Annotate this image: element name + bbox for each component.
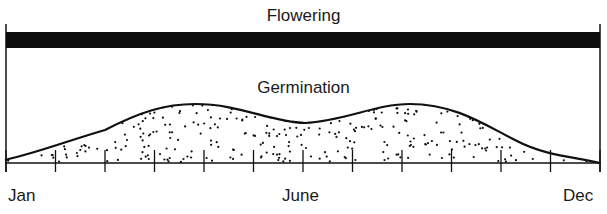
- axis-ticks: [6, 150, 600, 172]
- germination-label: Germination: [0, 78, 607, 98]
- month-label-jan: Jan: [8, 186, 35, 206]
- month-label-dec: Dec: [563, 186, 593, 206]
- phenology-diagram: [0, 0, 607, 214]
- flowering-label: Flowering: [0, 6, 607, 26]
- month-label-june: June: [282, 186, 319, 206]
- flowering-bar: [6, 32, 600, 48]
